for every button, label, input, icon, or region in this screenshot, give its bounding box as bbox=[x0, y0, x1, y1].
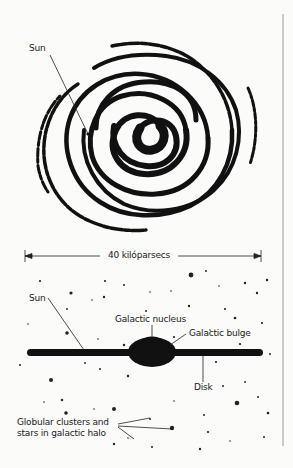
bulge-pointer-line bbox=[170, 334, 186, 345]
spiral-arm-a-mid bbox=[90, 94, 208, 194]
edge-on-galaxy bbox=[27, 337, 263, 368]
sun-label-edge-on: Sun bbox=[29, 293, 46, 303]
galactic-bulge-label: Galactic bulge bbox=[189, 328, 251, 338]
sun-marker-face-on bbox=[86, 132, 89, 135]
halo-label-line-2: stars in galactic halo bbox=[17, 428, 106, 439]
halo-label-line-1: Globular clusters and bbox=[17, 417, 109, 428]
disk-label: Disk bbox=[194, 382, 213, 392]
sun-label-face-on: Sun bbox=[29, 43, 46, 53]
sun-pointer-line-edge-on bbox=[48, 298, 84, 350]
scale-bar-label: 40 kilóparsecs bbox=[106, 250, 172, 260]
spiral-galaxy-face-on bbox=[38, 43, 256, 230]
galactic-nucleus-label: Galactic nucleus bbox=[115, 314, 186, 324]
spiral-arm-right-edge bbox=[248, 88, 256, 164]
halo-pointer-line-1 bbox=[118, 418, 150, 424]
halo-pointer-line-2 bbox=[118, 426, 172, 429]
galaxy-diagram bbox=[0, 0, 293, 468]
halo-pointer-line-3 bbox=[118, 427, 134, 439]
